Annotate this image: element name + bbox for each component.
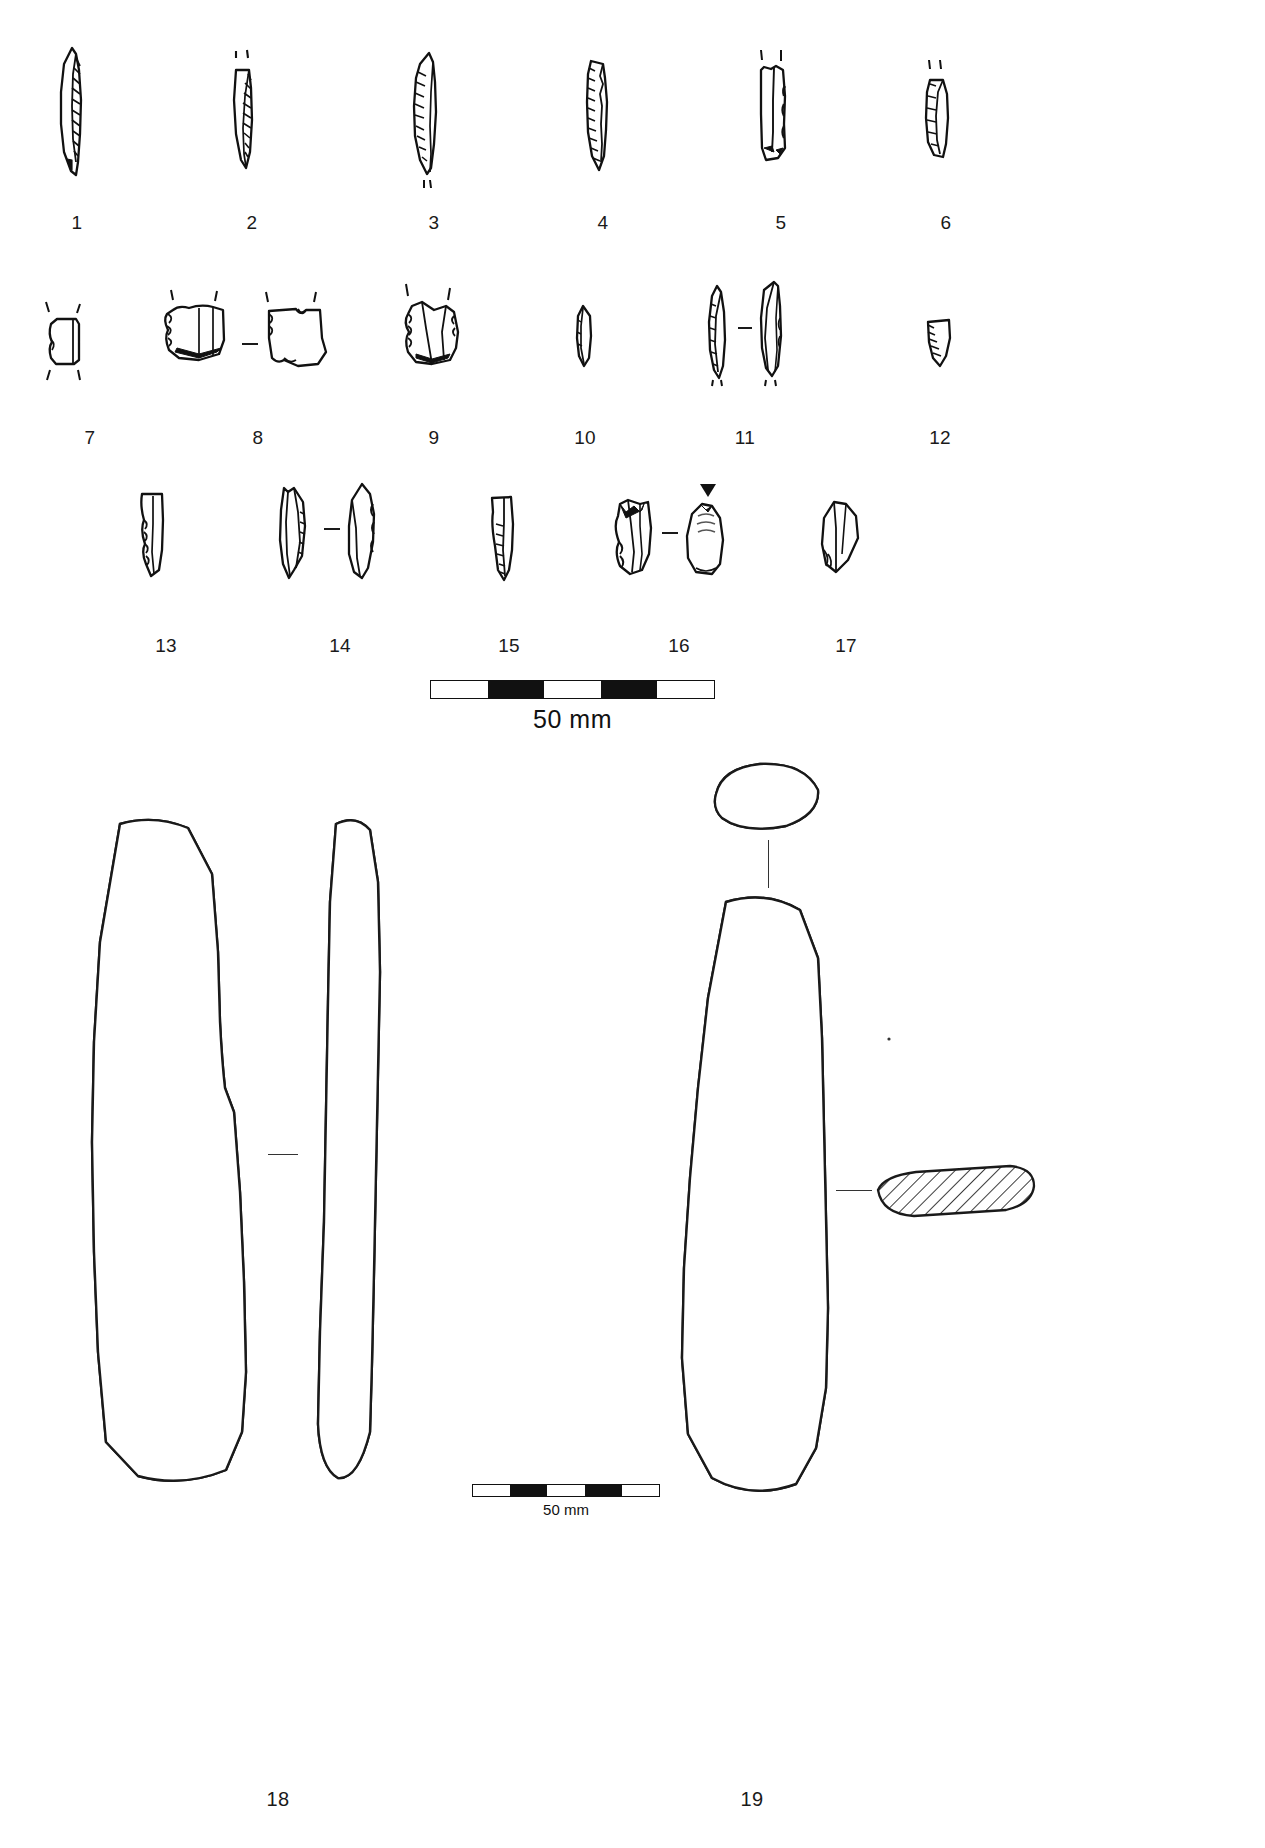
- artifact-19-side-connector: [836, 1190, 872, 1191]
- scale-segment: [544, 681, 601, 698]
- artifact-18-side-view: [300, 812, 410, 1512]
- artifact-2-drawing: [225, 48, 271, 174]
- artifact-17-drawing: [812, 498, 870, 580]
- scale-segment: [431, 681, 488, 698]
- artifact-label-14: 14: [329, 635, 351, 657]
- artifact-11-connector: [738, 327, 752, 329]
- artifact-10-drawing: [568, 304, 602, 370]
- artifact-13-drawing: [132, 490, 174, 582]
- artifact-label-7: 7: [85, 427, 96, 449]
- artifact-label-5: 5: [776, 212, 787, 234]
- artifact-label-15: 15: [498, 635, 520, 657]
- artifact-18-front-view: [62, 812, 272, 1512]
- artifact-16-connector: [662, 532, 678, 534]
- artifact-11-view-b: [752, 278, 794, 386]
- artifact-11-view-a: [700, 282, 738, 386]
- artefact-plate: 1 2 3: [0, 0, 1265, 1848]
- stray-mark: [886, 1036, 892, 1042]
- artifact-label-16: 16: [668, 635, 690, 657]
- artifact-label-10: 10: [574, 427, 596, 449]
- artifact-label-1: 1: [72, 212, 83, 234]
- artifact-19-side-section: [870, 1156, 1040, 1226]
- scale-bar-top-segments: [430, 680, 715, 699]
- scale-segment: [547, 1485, 584, 1496]
- scale-segment: [657, 681, 714, 698]
- artifact-label-4: 4: [598, 212, 609, 234]
- artifact-16-view-a: [604, 496, 660, 580]
- artifact-19-top-section: [700, 756, 830, 838]
- scale-bar-bottom-caption: 50 mm: [472, 1501, 660, 1518]
- artifact-label-19: 19: [741, 1788, 764, 1811]
- artifact-14-view-b: [340, 480, 390, 584]
- artifact-label-6: 6: [941, 212, 952, 234]
- artifact-3-drawing: [402, 48, 456, 188]
- scale-segment: [473, 1485, 510, 1496]
- artifact-label-12: 12: [929, 427, 951, 449]
- scale-segment: [488, 681, 545, 698]
- artifact-label-13: 13: [155, 635, 177, 657]
- artifact-9-drawing: [392, 282, 484, 384]
- artifact-16-view-b: [678, 500, 732, 580]
- artifact-label-11: 11: [735, 427, 755, 449]
- scale-bar-bottom-segments: [472, 1484, 660, 1497]
- scale-segment: [622, 1485, 659, 1496]
- artifact-8-view-b: [258, 290, 346, 382]
- artifact-4-drawing: [577, 58, 621, 176]
- scale-segment: [601, 681, 658, 698]
- scale-segment: [585, 1485, 622, 1496]
- artifact-8-connector: [242, 343, 258, 345]
- artifact-19-top-connector: [768, 840, 769, 888]
- artifact-19-front-view: [648, 888, 868, 1508]
- artifact-label-8: 8: [253, 427, 264, 449]
- percussion-arrow-icon: [700, 484, 716, 497]
- artifact-label-3: 3: [429, 212, 440, 234]
- scale-bar-top-caption: 50 mm: [430, 705, 715, 734]
- artifact-7-drawing: [38, 300, 108, 382]
- artifact-15-drawing: [484, 494, 522, 584]
- artifact-14-view-a: [272, 482, 322, 584]
- artifact-label-9: 9: [429, 427, 440, 449]
- scale-bar-top: 50 mm: [430, 680, 715, 734]
- artifact-14-connector: [324, 528, 340, 530]
- artifact-label-2: 2: [247, 212, 258, 234]
- artifact-label-18: 18: [267, 1788, 290, 1811]
- artifact-6-drawing: [916, 58, 964, 172]
- artifact-8-view-a: [155, 288, 241, 378]
- artifact-12-drawing: [918, 312, 958, 372]
- artifact-label-17: 17: [835, 635, 857, 657]
- artifact-1-drawing: [52, 44, 104, 179]
- scale-bar-bottom: 50 mm: [472, 1484, 660, 1518]
- artifact-5-drawing: [750, 48, 802, 174]
- scale-segment: [510, 1485, 547, 1496]
- artifact-18-view-connector: [268, 1154, 298, 1155]
